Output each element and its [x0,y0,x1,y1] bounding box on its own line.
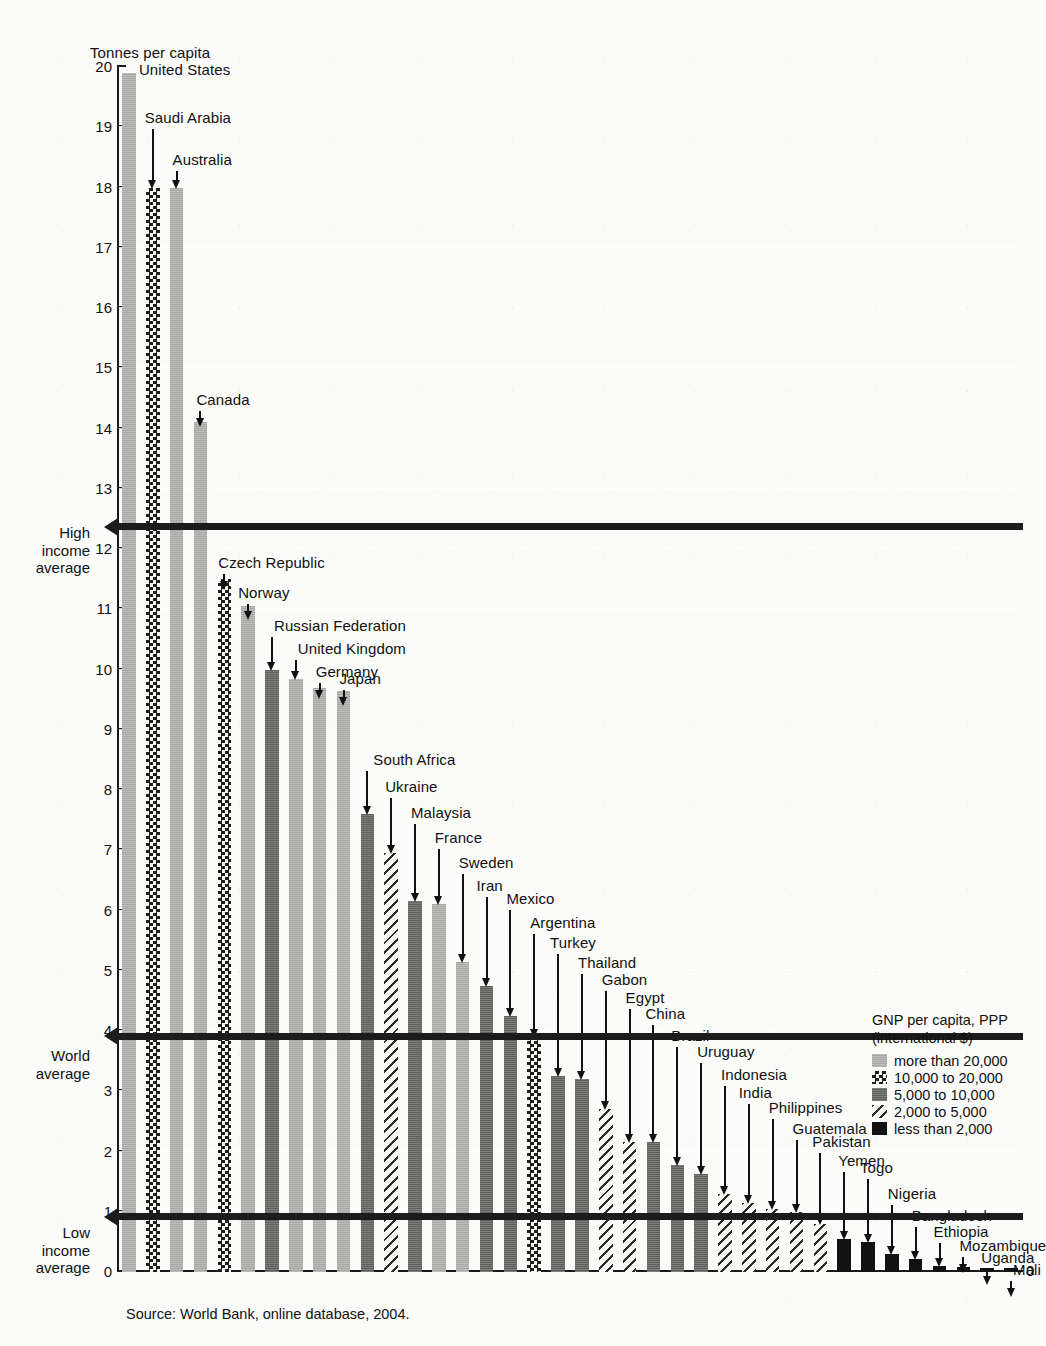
bar [885,1254,899,1272]
annotation-label: Mali [1013,1262,1041,1277]
annotation-arrow [343,690,345,698]
annotation-label: Uruguay [697,1044,754,1059]
y-tick-label: 5 [104,961,112,978]
y-tick-label: 17 [95,238,112,255]
annotation-label: Ukraine [385,779,437,794]
annotation-label: Mexico [506,891,554,906]
bar [194,422,208,1272]
annotation-label: France [435,830,482,845]
annotation-arrow [676,1047,678,1158]
legend-swatch-more20 [872,1054,887,1067]
bar [575,1079,589,1272]
bar [241,606,255,1272]
reference-line-label-line: average [14,1259,90,1277]
bar [623,1142,637,1272]
y-tick-label: 9 [104,720,112,737]
legend-title-line1: GNP per capita, PPP [872,1012,1008,1030]
annotation-arrow [319,683,321,691]
reference-line-label-line: Low [14,1224,90,1242]
bar [289,679,303,1272]
reference-line-label-high: Highincomeaverage [14,524,90,577]
legend-item-b5to10: 5,000 to 10,000 [872,1086,1008,1103]
bar [861,1242,875,1272]
annotation-label: Sweden [459,855,514,870]
annotation-label: South Africa [373,752,455,767]
annotation-arrow [581,974,583,1072]
y-tick-label: 16 [95,299,112,316]
y-tick-label: 11 [96,600,112,617]
annotation-arrow [414,824,416,894]
annotation-label: Indonesia [721,1067,787,1082]
y-tick-label: 12 [95,540,112,557]
reference-line-label-low: Lowincomeaverage [14,1224,90,1277]
legend-label: 2,000 to 5,000 [894,1104,987,1120]
bar [480,986,494,1272]
annotation-label: Australia [173,152,232,167]
annotation-arrow [748,1104,750,1196]
bar [456,962,470,1272]
annotation-label: Togo [860,1160,893,1175]
bar [694,1174,708,1272]
legend-item-less2: less than 2,000 [872,1120,1008,1137]
legend-label: 10,000 to 20,000 [894,1070,1003,1086]
annotation-arrow [271,637,273,663]
annotation-arrow [652,1025,654,1135]
y-tick-label: 18 [95,178,112,195]
annotation-label: Pakistan [812,1134,870,1149]
bar [814,1224,828,1272]
annotation-label: Egypt [626,990,665,1005]
annotation-arrow [1010,1281,1012,1289]
legend-swatch-b5to10 [872,1088,887,1101]
reference-line-label-line: average [14,559,90,577]
annotation-label: Gabon [602,972,648,987]
bar [384,853,398,1272]
y-tick-label: 14 [95,419,112,436]
reference-line-label-line: High [14,524,90,542]
legend-swatch-b2to5 [872,1105,887,1118]
bar [265,670,279,1273]
annotation-label: Czech Republic [218,555,324,570]
annotation-label: Canada [196,392,249,407]
reference-line-high [117,523,1023,530]
annotation-arrow [533,934,535,1030]
reference-line-label-line: average [14,1065,90,1083]
annotation-arrow [223,574,225,582]
annotation-label: Norway [238,585,289,600]
annotation-arrow [700,1063,702,1167]
annotation-arrow [819,1153,821,1217]
y-tick-label: 13 [95,479,112,496]
source-note: Source: World Bank, online database, 200… [126,1306,409,1322]
bar [551,1076,565,1272]
annotation-arrow [152,129,154,181]
annotation-arrow [724,1086,726,1187]
legend-label: 5,000 to 10,000 [894,1087,995,1103]
annotation-arrow [915,1227,917,1252]
annotation-arrow [390,798,392,846]
annotation-arrow [366,771,368,807]
y-tick-label: 2 [104,1142,112,1159]
annotation-arrow [462,874,464,955]
annotation-arrow [486,897,488,979]
legend-title: GNP per capita, PPP (international $) [872,1012,1008,1047]
bar [313,688,327,1272]
y-tick-label: 19 [95,118,112,135]
annotation-label: Argentina [530,915,595,930]
annotation-label: China [645,1006,685,1021]
annotation-label: Malaysia [411,805,471,820]
legend-title-line2: (international $) [872,1030,1008,1048]
bar [504,1016,518,1272]
annotation-label: Japan [340,671,381,686]
annotation-label: Saudi Arabia [145,110,231,125]
bar [146,188,160,1273]
y-tick-label: 0 [104,1263,112,1280]
annotation-arrow [199,411,201,419]
annotation-label: Nigeria [888,1186,936,1201]
annotation-label: United States [139,62,230,77]
annotation-arrow [295,660,297,672]
bar [361,814,375,1272]
legend-label: more than 20,000 [894,1053,1008,1069]
annotation-arrow [891,1205,893,1247]
bar [122,73,136,1272]
y-tick-label: 15 [95,359,112,376]
annotation-arrow [986,1269,988,1277]
